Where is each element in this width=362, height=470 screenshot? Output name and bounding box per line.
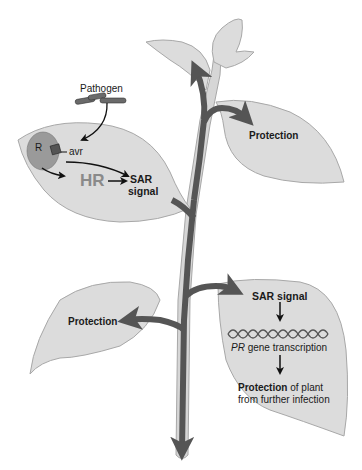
sar-signal-label-line2: signal xyxy=(128,186,158,197)
hr-label: HR xyxy=(80,172,105,190)
top-bud-leaf xyxy=(212,19,254,68)
pr-rest: gene transcription xyxy=(245,342,327,353)
protection-of-plant-label: Protection of plant xyxy=(238,383,323,394)
lower-right-sar-signal-label: SAR signal xyxy=(252,291,307,302)
sar-signal-label-line1: SAR xyxy=(130,174,152,185)
pathogen-label: Pathogen xyxy=(80,84,123,95)
avr-label: avr xyxy=(69,147,83,158)
r-protein-label: R xyxy=(35,143,42,154)
pr-italic: PR xyxy=(231,342,245,353)
protection-bold: Protection xyxy=(238,382,287,393)
lower-left-leaf xyxy=(30,282,160,374)
lower-left-protection-label: Protection xyxy=(68,317,117,328)
pr-gene-transcription-label: PR gene transcription xyxy=(231,343,327,354)
lower-right-leaf xyxy=(218,279,348,436)
protection-rest: of plant xyxy=(287,382,323,393)
avr-protein-icon xyxy=(50,144,61,155)
upper-right-protection-label: Protection xyxy=(249,131,298,142)
further-infection-label: from further infection xyxy=(238,395,330,406)
